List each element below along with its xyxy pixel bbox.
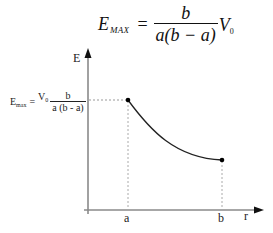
emax-formula: EMAX = b a(b − a) V0 — [98, 2, 234, 46]
formula-lhs: EMAX — [98, 14, 129, 35]
point-b — [220, 158, 225, 163]
formula-fraction: b a(b − a) — [154, 4, 218, 44]
y-axis-label: E — [73, 51, 80, 66]
field-curve — [128, 100, 222, 160]
emax-label-fraction: b a (b - a) — [50, 90, 85, 113]
x-tick-a: a — [124, 211, 129, 226]
formula-fraction-bar — [154, 23, 218, 24]
x-tick-b: b — [218, 211, 224, 226]
emax-label-factor-symbol: V — [38, 91, 45, 102]
formula-numerator: b — [179, 4, 192, 22]
formula-denominator: a(b − a) — [154, 26, 218, 44]
formula-lhs-symbol: E — [98, 14, 109, 35]
formula-equals: = — [137, 14, 147, 35]
emax-label-denominator: a (b - a) — [50, 102, 85, 113]
emax-label-numerator: b — [64, 90, 73, 101]
emax-axis-label: Emax = V0 b a (b - a) — [10, 90, 86, 113]
emax-label-factor: V0 — [38, 91, 48, 102]
formula-factor: V0 — [219, 15, 234, 36]
emax-label-lhs: Emax — [10, 96, 26, 107]
x-axis-arrow-icon — [254, 207, 264, 214]
formula-lhs-subscript: MAX — [110, 25, 129, 35]
x-axis-label: r — [244, 209, 248, 224]
emax-label-subscript: max — [16, 102, 26, 108]
emax-label-equals: = — [29, 96, 35, 107]
formula-factor-subscript: 0 — [230, 27, 234, 36]
formula-factor-symbol: V — [219, 15, 230, 36]
point-a — [126, 98, 131, 103]
emax-label-factor-subscript: 0 — [45, 97, 48, 103]
y-axis-arrow-icon — [85, 48, 92, 58]
